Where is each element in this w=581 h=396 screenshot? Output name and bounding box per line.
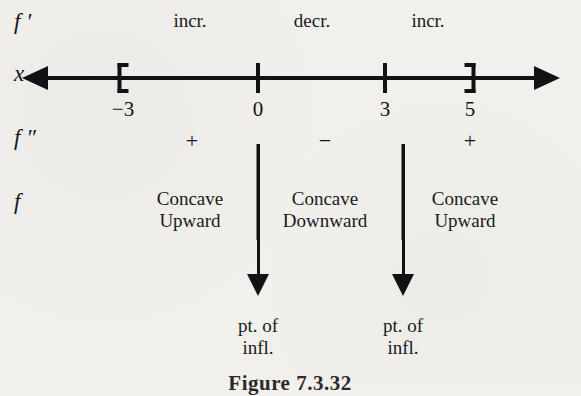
axis-tick-bracket-close xyxy=(465,63,476,93)
axis-label-0: 0 xyxy=(253,97,264,122)
axis-label-3: 3 xyxy=(380,97,391,122)
concavity-block-0-line2: Upward xyxy=(157,210,223,232)
concavity-block-1-line1: Concave xyxy=(283,188,367,210)
f-prime-interval-1: decr. xyxy=(294,10,330,32)
axis-label-3-text: 3 xyxy=(380,97,391,121)
concavity-block-2-line1: Concave xyxy=(432,188,498,210)
inflection-label-1-line2: infl. xyxy=(383,337,423,359)
f-prime-interval-1-text: decr. xyxy=(294,10,330,31)
concavity-block-2: Concave Upward xyxy=(432,188,498,233)
concavity-block-0-line1: Concave xyxy=(157,188,223,210)
axis-tick-3 xyxy=(383,63,387,93)
concavity-block-1: Concave Downward xyxy=(283,188,367,233)
f-prime-interval-0: incr. xyxy=(173,10,206,32)
axis-label-neg3: −3 xyxy=(112,97,134,122)
row-label-f-double-prime-text: f ″ xyxy=(14,125,36,150)
axis-tick-0 xyxy=(256,63,260,93)
inflection-arrow-1-icon xyxy=(391,144,415,296)
concavity-block-1-line2: Downward xyxy=(283,210,367,232)
figure-caption-text: Figure 7.3.32 xyxy=(228,371,351,395)
f-prime-interval-0-text: incr. xyxy=(173,10,206,31)
inflection-label-0-line1: pt. of xyxy=(238,315,278,337)
axis-label-neg3-text: −3 xyxy=(112,97,134,121)
axis-label-5: 5 xyxy=(465,97,476,122)
concavity-block-2-line2: Upward xyxy=(432,210,498,232)
f-prime-interval-2-text: incr. xyxy=(411,10,444,31)
inflection-label-0: pt. of infl. xyxy=(238,315,278,360)
f-double-prime-sign-1-text: − xyxy=(319,128,331,153)
f-double-prime-sign-1: − xyxy=(319,128,331,154)
f-double-prime-sign-2-text: + xyxy=(464,128,476,153)
inflection-label-1: pt. of infl. xyxy=(383,315,423,360)
row-label-f-double-prime: f ″ xyxy=(14,126,36,149)
axis-label-5-text: 5 xyxy=(465,97,476,121)
concavity-block-0: Concave Upward xyxy=(157,188,223,233)
inflection-label-1-line1: pt. of xyxy=(383,315,423,337)
row-label-f-prime: f ′ xyxy=(14,10,31,33)
figure-caption: Figure 7.3.32 xyxy=(228,371,351,396)
row-label-f: f xyxy=(14,190,20,213)
axis-label-0-text: 0 xyxy=(253,97,264,121)
right-arrowhead-icon xyxy=(534,66,560,90)
f-double-prime-sign-0: + xyxy=(186,128,198,154)
f-prime-interval-2: incr. xyxy=(411,10,444,32)
left-arrowhead-icon xyxy=(22,66,48,90)
inflection-label-0-line2: infl. xyxy=(238,337,278,359)
row-label-f-prime-text: f ′ xyxy=(14,9,31,34)
f-double-prime-sign-2: + xyxy=(464,128,476,154)
inflection-arrow-0-icon xyxy=(246,144,270,296)
row-label-f-text: f xyxy=(14,189,20,214)
f-double-prime-sign-0-text: + xyxy=(186,128,198,153)
axis-tick-bracket-open xyxy=(118,63,129,93)
